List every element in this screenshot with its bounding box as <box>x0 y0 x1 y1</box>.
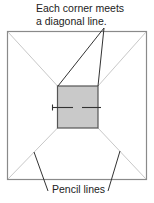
top-callout-label: Each corner meets a diagonal line. <box>36 2 124 28</box>
pencil-line-top-left <box>8 32 58 86</box>
callout-to-right-pencil-line <box>108 151 120 191</box>
diagram-canvas <box>0 0 154 203</box>
pencil-line-bottom-right <box>98 128 146 179</box>
top-callout-lines <box>58 28 104 86</box>
pencil-line-top-right <box>98 32 146 86</box>
callout-to-top-right-corner <box>98 28 104 86</box>
callout-to-top-left-corner <box>58 28 104 86</box>
callout-to-left-pencil-line <box>34 152 48 191</box>
pencil-lines-label: Pencil lines <box>52 183 105 196</box>
top-callout-line-1: Each corner meets <box>36 2 124 15</box>
top-callout-line-2: a diagonal line. <box>36 15 124 28</box>
pencil-line-bottom-left <box>8 128 58 179</box>
